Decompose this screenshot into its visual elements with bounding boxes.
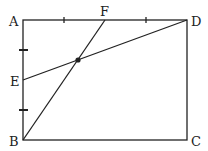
- label-a: A: [8, 14, 19, 29]
- label-b: B: [9, 134, 19, 149]
- intersection-point: [75, 57, 80, 62]
- label-d: D: [191, 14, 201, 29]
- segment-bf: [23, 20, 105, 140]
- geometry-diagram: A B C D E F: [0, 0, 208, 151]
- label-e: E: [10, 74, 20, 89]
- segment-ed: [23, 20, 187, 80]
- label-c: C: [191, 134, 201, 149]
- rectangle-abcd: [23, 20, 187, 140]
- label-f: F: [100, 4, 109, 19]
